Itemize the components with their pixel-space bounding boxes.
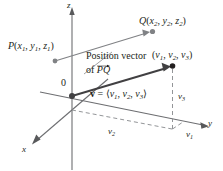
position-vector-diagram: z x y 0 P(x1, y1, z1) Q(x2, y2, z2) Posi…	[0, 0, 223, 171]
point-Q-comma-1: ,	[157, 15, 160, 26]
point-Q-rparen: )	[183, 15, 186, 26]
pq-vector-letters: PQ	[97, 64, 110, 75]
v2-dashed-horizontal	[72, 110, 172, 129]
diagram-canvas	[0, 0, 223, 171]
vector-equation-symbol: v	[90, 88, 95, 99]
eq-comma-1: ,	[118, 88, 121, 99]
point-P-comma-2: ,	[38, 40, 41, 51]
origin-label: 0	[61, 78, 66, 89]
position-vector-annotation-line2: of PQ	[86, 64, 110, 76]
component-v2-sub: 2	[112, 131, 115, 137]
position-vector-annotation-line1: Position vector	[86, 51, 146, 62]
component-v2-label: v2	[108, 127, 115, 137]
point-P-rparen: )	[50, 40, 53, 51]
component-v1-sub: 1	[190, 134, 193, 140]
component-v1-label: v1	[186, 130, 193, 140]
position-vector-arrowhead	[162, 63, 171, 72]
vector-tip-dot	[170, 63, 176, 69]
eq-comma-2: ,	[130, 88, 133, 99]
component-v3-label: v3	[178, 92, 185, 102]
point-Q-label: Q(x2, y2, z2)	[139, 16, 186, 27]
component-v3-sub: 3	[182, 96, 185, 102]
point-Q-comma-2: ,	[170, 15, 173, 26]
tip-comma-2: ,	[176, 49, 179, 60]
pq-arrowhead	[142, 30, 150, 37]
origin-dot	[69, 93, 75, 99]
vector-equation-rangle: ⟩	[143, 88, 147, 99]
vector-equation-label: v = ⟨v1, v2, v3⟩	[90, 89, 147, 100]
point-Q-dot	[150, 29, 155, 34]
x-axis-label: x	[22, 145, 26, 154]
v1-dashed-connector	[173, 122, 184, 129]
z-axis-label: z	[67, 1, 71, 10]
position-vector-annotation-of: of	[86, 64, 94, 75]
tip-rparen: )	[189, 49, 192, 60]
vector-equation-equals: =	[98, 88, 104, 99]
point-P-dot	[53, 59, 58, 64]
x-axis-arrowhead	[32, 135, 41, 145]
pq-vector-notation: PQ	[97, 64, 110, 76]
y-axis-label: y	[208, 119, 212, 128]
tip-comma-1: ,	[163, 49, 166, 60]
point-P-comma-1: ,	[25, 40, 28, 51]
vector-tip-coords-label: (v1, v2, v3)	[152, 50, 192, 61]
point-P-label: P(x1, y1, z1)	[8, 41, 54, 52]
